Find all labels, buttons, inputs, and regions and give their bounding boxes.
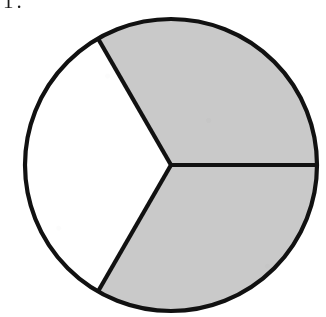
worksheet-page: 1.: [0, 0, 326, 317]
fraction-pie-diagram: [0, 0, 326, 317]
